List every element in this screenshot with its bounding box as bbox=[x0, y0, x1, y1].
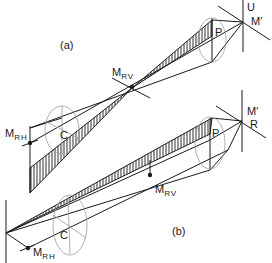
label-m-rh-b: MRH bbox=[33, 247, 56, 261]
label-m-rh-a: MRH bbox=[5, 128, 28, 142]
label-c-a: C bbox=[60, 130, 68, 141]
caption-b: (b) bbox=[172, 226, 185, 237]
caption-a: (a) bbox=[60, 40, 73, 51]
label-m-rv-b: MRV bbox=[155, 184, 177, 198]
label-c-b: C bbox=[60, 230, 68, 241]
label-m-prime-a: M′ bbox=[251, 16, 262, 27]
label-u: U bbox=[247, 2, 255, 13]
label-p-b: P bbox=[212, 128, 219, 139]
point-m-rh bbox=[28, 141, 32, 145]
label-m-rv-a: MRV bbox=[112, 67, 134, 81]
label-p-a: P bbox=[215, 27, 222, 38]
suspension-geometry-diagram bbox=[0, 0, 272, 263]
point-m-rv bbox=[148, 173, 152, 177]
point-m-rh bbox=[26, 246, 30, 250]
point-m-rv bbox=[130, 85, 134, 89]
pivot-diagonal-axis bbox=[216, 106, 266, 138]
label-m-prime-b: M′ bbox=[247, 106, 258, 117]
label-r: R bbox=[250, 119, 258, 130]
